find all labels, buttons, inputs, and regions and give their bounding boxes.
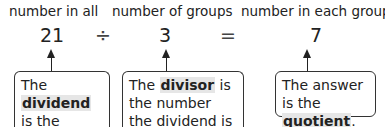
- divisor-value: 3: [150, 24, 180, 46]
- dividend-definition-box: The dividend is the number to be divided…: [14, 71, 110, 127]
- label-number-in-all: number in all: [9, 3, 98, 19]
- label-number-in-each-group: number in each group: [241, 3, 385, 19]
- label-number-of-groups: number of groups: [112, 3, 233, 19]
- divisor-definition-box: The divisor is the number the dividend i…: [122, 71, 244, 127]
- term-dividend: dividend: [21, 95, 91, 111]
- equals-sign: =: [220, 24, 236, 46]
- term-quotient: quotient: [282, 113, 351, 127]
- dividend-value: 21: [37, 24, 67, 46]
- divide-sign: ÷: [95, 24, 111, 46]
- term-divisor: divisor: [160, 77, 216, 93]
- quotient-definition-box: The answer is the quotient.: [275, 71, 376, 117]
- quotient-value: 7: [301, 24, 331, 46]
